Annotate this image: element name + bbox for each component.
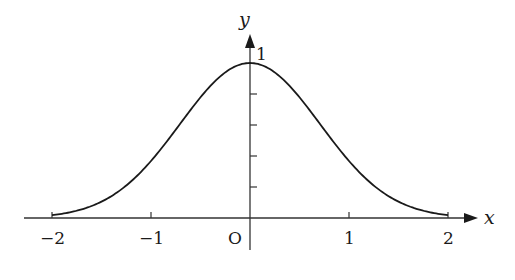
origin-label: O [228, 228, 242, 248]
y-ticks [250, 94, 257, 187]
chart: x y 1 −2 −1 O 1 2 [0, 0, 515, 280]
x-axis-label: x [484, 206, 495, 228]
x-axis-arrow-icon [464, 213, 478, 223]
x-tick-label-2: 2 [443, 228, 454, 248]
x-tick-label-neg1: −1 [139, 228, 164, 248]
y-tick-label-1: 1 [256, 44, 267, 64]
x-tick-label-neg2: −2 [40, 228, 65, 248]
y-axis-label: y [238, 8, 250, 30]
y-axis-arrow-icon [245, 34, 255, 48]
x-tick-label-1: 1 [344, 228, 355, 248]
